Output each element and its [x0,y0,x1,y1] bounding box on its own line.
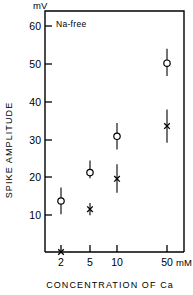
y-tick-label-10: 10 [29,209,41,221]
circle-marker [87,169,93,175]
y-tick-label-50: 50 [29,58,41,70]
y-axis-unit-label: mV [33,0,48,11]
y-tick-label-40: 40 [29,96,41,108]
circle-marker [114,133,120,139]
x-axis-unit-label: mM [176,257,192,268]
x-axis-title: CONCENTRATION OF Ca [46,280,174,290]
y-tick-label-20: 20 [29,171,41,183]
circle-marker [58,198,64,204]
circle-marker [164,60,170,66]
x-tick-label-2: 2 [58,256,64,268]
panel-annotation-na-free: Na-free [56,19,86,29]
y-tick-label-60: 60 [29,20,41,32]
spike-amplitude-scatter-chart: 60 50 40 30 20 10 mV 2 5 10 50 mM Na-fre… [0,0,193,295]
chart-figure: 60 50 40 30 20 10 mV 2 5 10 50 mM Na-fre… [0,0,193,295]
y-axis-title: SPIKE AMPLITUDE [4,102,14,199]
y-tick-label-30: 30 [29,134,41,146]
x-tick-label-50: 50 [161,256,173,268]
x-tick-label-10: 10 [111,256,123,268]
x-tick-label-5: 5 [87,256,93,268]
chart-background [0,0,193,295]
